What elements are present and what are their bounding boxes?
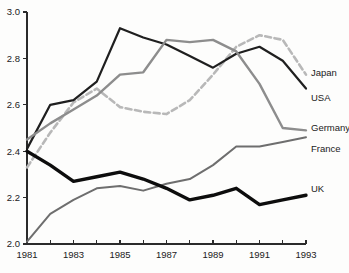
series-line-usa — [27, 28, 306, 149]
axis-lines — [27, 12, 306, 244]
y-tick-label: 3.0 — [7, 6, 20, 17]
y-tick-label: 2.2 — [7, 192, 20, 203]
y-tick-label: 2.4 — [7, 146, 20, 157]
data-series-group — [27, 28, 306, 241]
x-tick-label: 1983 — [63, 249, 84, 260]
series-label-france: France — [311, 143, 341, 154]
chart-svg: 3.02.82.62.42.22.0 198119831985198719891… — [0, 0, 349, 273]
y-tick-label: 2.8 — [7, 53, 20, 64]
y-tick-label: 2.0 — [7, 238, 20, 249]
series-label-usa: USA — [311, 92, 331, 103]
axes-group — [23, 12, 306, 244]
x-tick-label: 1985 — [109, 249, 130, 260]
x-axis-tick-labels: 1981198319851987198919911993 — [16, 249, 316, 260]
series-line-uk — [27, 151, 306, 204]
x-tick-label: 1989 — [202, 249, 223, 260]
x-tick-label: 1981 — [16, 249, 37, 260]
x-tick-label: 1991 — [249, 249, 270, 260]
series-label-uk: UK — [311, 183, 325, 194]
series-line-germany — [27, 40, 306, 140]
line-chart: 3.02.82.62.42.22.0 198119831985198719891… — [0, 0, 349, 273]
x-tick-label: 1987 — [156, 249, 177, 260]
series-labels-group: JapanUSAGermanyFranceUK — [311, 67, 349, 194]
series-label-germany: Germany — [311, 122, 349, 133]
y-tick-label: 2.6 — [7, 99, 20, 110]
y-axis-tick-labels: 3.02.82.62.42.22.0 — [7, 6, 20, 249]
series-label-japan: Japan — [311, 67, 337, 78]
x-tick-label: 1993 — [295, 249, 316, 260]
